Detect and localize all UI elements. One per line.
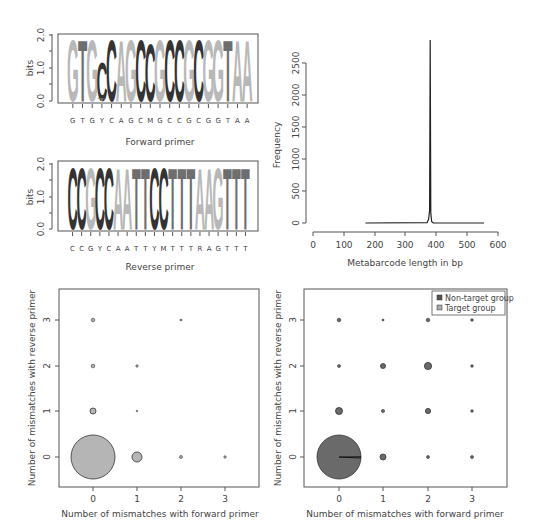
bubble-right-xtick-3: 3	[469, 494, 475, 504]
reverse-ytick-1: 1.0	[36, 190, 46, 205]
consensus-base: T	[179, 245, 185, 253]
bubble-left-ytick-1: 1	[42, 408, 52, 414]
bubble	[380, 454, 386, 460]
consensus-base: T	[79, 117, 85, 125]
figure: GTGCTCAGCCGCCGCGGTAA 0.0 1.0 2.0 bits GT…	[0, 0, 533, 527]
forward-primer-logo: GTGCTCAGCCGCCGCGGTAA 0.0 1.0 2.0 bits GT…	[25, 23, 258, 147]
consensus-base: G	[89, 117, 94, 125]
bubble	[90, 408, 96, 414]
hist-ytick-2500: 2500	[291, 51, 301, 74]
consensus-base: C	[167, 117, 172, 125]
consensus-base: G	[186, 117, 191, 125]
consensus-base: R	[198, 245, 203, 253]
legend-nontarget-label: Non-target group	[445, 294, 514, 303]
hist-ytick-0: 0	[291, 220, 301, 226]
bubble	[337, 318, 341, 322]
bubble	[425, 408, 430, 413]
hist-xtick-200: 200	[366, 240, 383, 250]
bubble-left-xtick-2: 2	[178, 494, 184, 504]
consensus-base: C	[177, 117, 182, 125]
length-histogram: 0 500 1000 1500 2000 2500 Frequency 0 10…	[272, 40, 507, 268]
consensus-base: A	[245, 117, 250, 125]
bubble-left-points	[71, 318, 226, 479]
bubble	[427, 456, 430, 459]
consensus-base: A	[116, 245, 121, 253]
bubble-right-xtick-2: 2	[425, 494, 431, 504]
bubble	[426, 318, 430, 322]
bubble-right-ytick-1: 1	[288, 408, 298, 414]
reverse-ytick-2: 2.0	[36, 157, 46, 172]
legend-target-label: Target group	[444, 304, 496, 313]
forward-ytick-1: 1.0	[36, 61, 46, 76]
forward-xlabel: Forward primer	[126, 137, 195, 147]
consensus-base: C	[70, 245, 75, 253]
bubble-right-ylabel: Number of mismatches with reverse primer	[273, 289, 283, 486]
bubble	[224, 456, 226, 458]
bubble-left-xtick-1: 1	[134, 494, 140, 504]
hist-xtick-0: 0	[310, 240, 316, 250]
consensus-base: G	[128, 117, 133, 125]
bubble-plot-target: 0 1 2 3 0 1 2 3 Number of mismatches wit…	[27, 289, 259, 519]
consensus-base: T	[224, 245, 230, 253]
bubble-right-ytick-2: 2	[288, 363, 298, 369]
bubble	[338, 365, 341, 368]
legend: Non-target group Target group	[432, 291, 514, 315]
bubble-right-xlabel: Number of mismatches with forward primer	[306, 509, 504, 519]
bubble	[471, 410, 474, 413]
consensus-base: G	[215, 117, 220, 125]
consensus-base: G	[70, 117, 75, 125]
bubble	[336, 408, 343, 415]
forward-ylabel: bits	[25, 59, 35, 76]
hist-xtick-600: 600	[489, 240, 506, 250]
hist-frequency-line	[365, 40, 484, 223]
consensus-base: T	[242, 245, 248, 253]
bubble-left-xlabel: Number of mismatches with forward primer	[61, 509, 259, 519]
bubble	[180, 319, 182, 321]
consensus-base: T	[233, 245, 239, 253]
hist-ytick-500: 500	[291, 182, 301, 199]
bubble	[91, 318, 95, 322]
consensus-base: C	[138, 117, 143, 125]
reverse-xlabel: Reverse primer	[126, 262, 195, 272]
hist-ytick-1500: 1500	[291, 115, 301, 138]
legend-nontarget-swatch	[437, 295, 442, 300]
consensus-base: M	[161, 245, 167, 253]
bubble	[180, 456, 183, 459]
consensus-base: Y	[151, 245, 157, 253]
hist-xlabel: Metabarcode length in bp	[347, 258, 463, 268]
consensus-base: T	[133, 245, 139, 253]
bubble	[471, 365, 474, 368]
consensus-base: C	[196, 117, 201, 125]
consensus-base: A	[235, 117, 240, 125]
consensus-base: T	[170, 245, 176, 253]
bubble-left-ytick-3: 3	[42, 317, 52, 323]
bubble-left-ytick-0: 0	[42, 454, 52, 460]
forward-ytick-0: 0.0	[36, 94, 46, 109]
consensus-base: G	[215, 245, 220, 253]
consensus-base: A	[207, 245, 212, 253]
hist-ytick-1000: 1000	[291, 147, 301, 170]
legend-target-swatch	[437, 305, 442, 310]
consensus-base: M	[147, 117, 153, 125]
hist-ytick-2000: 2000	[291, 83, 301, 106]
bubble-right-xtick-1: 1	[380, 494, 386, 504]
hist-xtick-300: 300	[396, 240, 413, 250]
bubble-right-ytick-0: 0	[288, 454, 298, 460]
hist-xtick-500: 500	[458, 240, 475, 250]
bubble	[136, 410, 138, 412]
consensus-base: T	[188, 245, 194, 253]
bubble-plot-nontarget: 0 1 2 3 0 1 2 3 Number of mismatches wit…	[273, 289, 514, 519]
bubble	[136, 365, 138, 367]
consensus-base: Y	[97, 245, 103, 253]
reverse-ylabel: bits	[25, 188, 35, 205]
hist-xtick-400: 400	[427, 240, 444, 250]
bubble	[381, 364, 386, 369]
bubble-right-xtick-0: 0	[336, 494, 342, 504]
bubble-left-ylabel: Number of mismatches with reverse primer	[27, 289, 37, 486]
consensus-base: C	[79, 245, 84, 253]
bubble-left-xtick-0: 0	[90, 494, 96, 504]
consensus-base: Y	[99, 117, 105, 125]
bubble	[132, 452, 142, 462]
hist-ylabel: Frequency	[272, 121, 282, 168]
bubble	[381, 409, 384, 412]
